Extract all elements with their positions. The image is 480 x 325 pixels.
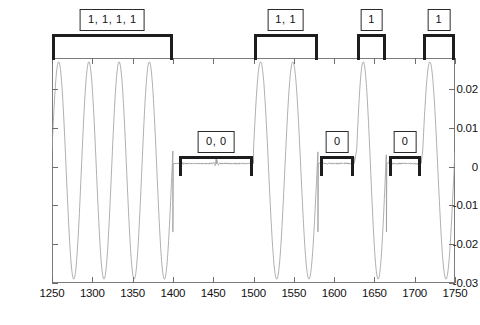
annotation-bracket [320,156,354,176]
bracket-leg-left [423,34,426,60]
x-tick-mark [92,277,93,283]
annotation-bracket [254,34,318,60]
y-tick-mark-right [449,128,455,129]
x-tick-mark-top [334,58,335,64]
y-tick-mark-right [449,167,455,168]
bracket-leg-right [383,34,386,60]
y-tick-label: -0.01 [432,199,478,211]
x-tick-mark [133,277,134,283]
x-tick-mark-top [213,58,214,64]
y-tick-mark [52,167,58,168]
bracket-span-bar [179,156,253,159]
bracket-leg-left [179,156,182,176]
annotation-bracket [179,156,253,176]
y-tick-mark [52,128,58,129]
x-tick-mark [254,277,255,283]
x-tick-mark [415,277,416,283]
annotation-label-0-6: 0 [394,131,417,153]
y-tick-label: -0.02 [432,238,478,250]
bracket-leg-left [320,156,323,176]
annotation-label-1-7: 1 [428,9,451,31]
annotation-bracket [389,156,421,176]
bracket-leg-left [52,34,55,60]
annotation-label-1-5: 1 [360,9,383,31]
y-tick-label: 0.02 [432,83,478,95]
bracket-leg-right [452,34,455,60]
annotation-label-0-2: 0, 0 [198,131,235,153]
x-tick-mark [334,277,335,283]
bracket-span-bar [389,156,421,159]
y-tick-mark [52,244,58,245]
bracket-leg-right [351,156,354,176]
bracket-span-bar [52,34,173,37]
bracket-span-bar [254,34,318,37]
annotation-label-1-1: 1, 1, 1, 1 [80,9,145,31]
y-tick-mark-right [449,244,455,245]
bracket-leg-right [170,34,173,60]
bracket-leg-left [389,156,392,176]
y-tick-mark [52,205,58,206]
x-tick-mark [173,277,174,283]
bracket-span-bar [423,34,455,37]
x-tick-mark [52,277,53,283]
x-tick-mark [294,277,295,283]
bracket-leg-left [254,34,257,60]
bracket-leg-right [250,156,253,176]
bracket-leg-left [357,34,360,60]
x-tick-label: 1750 [430,287,480,299]
x-tick-mark [213,277,214,283]
y-tick-mark [52,89,58,90]
y-tick-mark-right [449,89,455,90]
y-tick-label: 0 [432,161,478,173]
bracket-span-bar [320,156,354,159]
x-tick-mark-top [455,58,456,64]
x-tick-mark-top [415,58,416,64]
annotation-label-0-4: 0 [326,131,349,153]
bracket-leg-right [418,156,421,176]
annotation-bracket [357,34,387,60]
bracket-leg-right [315,34,318,60]
x-tick-mark [374,277,375,283]
x-tick-mark-top [173,58,174,64]
y-tick-mark-right [449,205,455,206]
y-tick-label: 0.01 [432,122,478,134]
annotation-label-1-3: 1, 1 [267,9,304,31]
annotation-bracket [52,34,173,60]
y-tick-mark [52,283,58,284]
annotation-bracket [423,34,455,60]
y-tick-mark-right [449,283,455,284]
x-tick-mark [455,277,456,283]
bracket-span-bar [357,34,387,37]
